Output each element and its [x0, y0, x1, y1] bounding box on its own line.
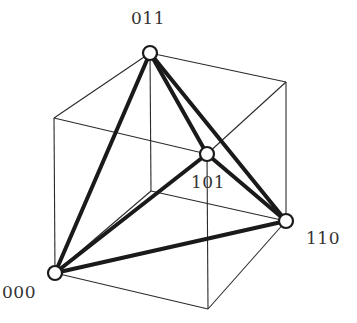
- diagram-svg: [0, 0, 357, 323]
- node-110: [279, 214, 293, 228]
- label-110: 110: [306, 228, 340, 248]
- tetrahedron-cube-diagram: 011 101 110 000: [0, 0, 357, 323]
- label-101: 101: [191, 172, 225, 192]
- cube-edge-hidden: [150, 53, 151, 191]
- cube-edge: [54, 118, 55, 273]
- label-011: 011: [131, 8, 165, 28]
- cube-edge: [207, 82, 286, 154]
- cube-edge: [54, 118, 207, 154]
- edge-011-101: [150, 53, 207, 154]
- cube-edge: [55, 273, 208, 309]
- node-000: [48, 266, 62, 280]
- label-000: 000: [2, 282, 36, 302]
- edge-011-000: [55, 53, 150, 273]
- tetrahedron-edges: [55, 53, 286, 273]
- node-101: [200, 147, 214, 161]
- node-011: [143, 46, 157, 60]
